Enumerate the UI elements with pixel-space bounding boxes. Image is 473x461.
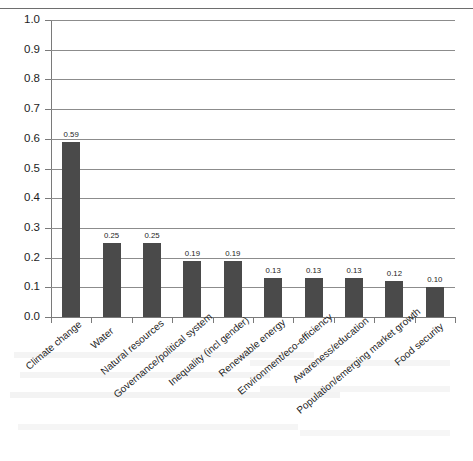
x-axis-category-label: Climate change <box>24 320 84 372</box>
gridline <box>51 50 455 51</box>
bar[interactable] <box>264 278 282 317</box>
x-axis-tick-mark <box>172 318 173 323</box>
y-axis-tick-label: 0.3 <box>0 222 40 234</box>
gridline <box>51 228 455 229</box>
x-axis-tick-mark <box>374 318 375 323</box>
x-axis-tick-mark <box>132 318 133 323</box>
bar-value-label: 0.12 <box>374 270 414 278</box>
bar-value-label: 0.25 <box>92 232 132 240</box>
bar-value-label: 0.13 <box>253 267 293 275</box>
y-axis-tick-label: 0.2 <box>0 252 40 264</box>
bar-value-label: 0.19 <box>172 250 212 258</box>
x-axis-category-label: Water <box>89 326 116 351</box>
bar-value-label: 0.25 <box>132 232 172 240</box>
y-axis-tick-label: 0.8 <box>0 73 40 85</box>
bar[interactable] <box>345 278 363 317</box>
scan-artifact <box>260 386 450 392</box>
x-axis-tick-mark <box>253 318 254 323</box>
bar-value-label: 0.59 <box>51 131 91 139</box>
bar[interactable] <box>224 261 242 317</box>
y-axis-tick-label: 0.4 <box>0 192 40 204</box>
bar[interactable] <box>426 287 444 317</box>
y-axis-tick-label: 0.1 <box>0 281 40 293</box>
chart-figure: 1.00.90.80.70.60.50.40.30.20.10.0 0.590.… <box>0 0 473 461</box>
bar[interactable] <box>62 142 80 317</box>
scan-artifact <box>18 424 298 430</box>
gridline <box>51 198 455 199</box>
gridline <box>51 20 455 21</box>
y-axis-tick-label: 0.7 <box>0 103 40 115</box>
x-axis-category-label: Awareness/education <box>291 316 371 385</box>
bar[interactable] <box>143 243 161 317</box>
bar-value-label: 0.13 <box>334 267 374 275</box>
gridline <box>51 139 455 140</box>
bar[interactable] <box>103 243 121 317</box>
y-axis-tick-label: 0.6 <box>0 133 40 145</box>
gridline <box>51 79 455 80</box>
bar[interactable] <box>385 281 403 317</box>
bar-value-label: 0.19 <box>213 250 253 258</box>
scan-artifact <box>300 430 450 436</box>
y-axis-tick-label: 0.5 <box>0 163 40 175</box>
x-axis-tick-mark <box>91 318 92 323</box>
gridline <box>51 109 455 110</box>
y-axis-tick-label: 0.0 <box>0 311 40 323</box>
scan-artifact <box>10 392 340 398</box>
x-axis-tick-mark <box>293 318 294 323</box>
bar[interactable] <box>305 278 323 317</box>
bar[interactable] <box>183 261 201 317</box>
page-top-rule <box>0 8 473 9</box>
bar-value-label: 0.10 <box>415 276 455 284</box>
bar-value-label: 0.13 <box>294 267 334 275</box>
y-axis-tick-label: 0.9 <box>0 44 40 56</box>
gridline <box>51 169 455 170</box>
y-axis-tick-label: 1.0 <box>0 14 40 26</box>
x-axis-tick-mark <box>455 318 456 323</box>
x-axis-tick-mark <box>51 318 52 323</box>
